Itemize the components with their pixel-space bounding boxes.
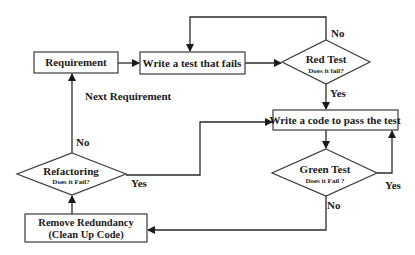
node-requirement: Requirement xyxy=(34,52,118,73)
red-test-sublabel: Does it fail? xyxy=(308,67,344,75)
refactoring-sublabel: Does it Fail? xyxy=(52,178,90,186)
write-test-label: Write a test that fails xyxy=(143,57,242,69)
green-yes-label: Yes xyxy=(385,179,402,191)
node-write-test: Write a test that fails xyxy=(140,52,245,74)
red-no-label: No xyxy=(331,27,345,39)
write-code-label: Write a code to pass the test xyxy=(269,114,400,126)
red-yes-label: Yes xyxy=(330,87,347,99)
edge-refactor-yes: Yes xyxy=(126,122,272,189)
green-test-label: Green Test xyxy=(300,163,351,175)
green-test-sublabel: Does it Fail ? xyxy=(305,177,345,185)
refactor-no-label: No xyxy=(76,136,90,148)
node-remove-redundancy: Remove Redundancy (Clean Up Code) xyxy=(25,214,147,242)
requirement-label: Requirement xyxy=(45,56,107,68)
red-test-label: Red Test xyxy=(306,53,347,65)
edge-refactor-no: No xyxy=(72,74,90,153)
refactoring-label: Refactoring xyxy=(43,165,99,177)
remove-redundancy-label: Remove Redundancy xyxy=(38,217,134,228)
tdd-flowchart: No Yes Yes No Yes No Next Requirement Re… xyxy=(0,0,415,255)
edge-red-yes: Yes xyxy=(326,84,347,109)
refactor-yes-label: Yes xyxy=(131,177,148,189)
next-requirement-label: Next Requirement xyxy=(85,90,172,102)
edge-green-no: No xyxy=(148,196,341,230)
edge-green-yes: Yes xyxy=(377,131,402,191)
green-no-label: No xyxy=(327,199,341,211)
clean-up-code-label: (Clean Up Code) xyxy=(48,229,124,241)
node-red-test: Red Test Does it fail? xyxy=(282,40,370,84)
node-refactoring: Refactoring Does it Fail? xyxy=(17,153,126,195)
node-write-code: Write a code to pass the test xyxy=(269,110,400,130)
node-green-test: Green Test Does it Fail ? xyxy=(272,149,377,196)
